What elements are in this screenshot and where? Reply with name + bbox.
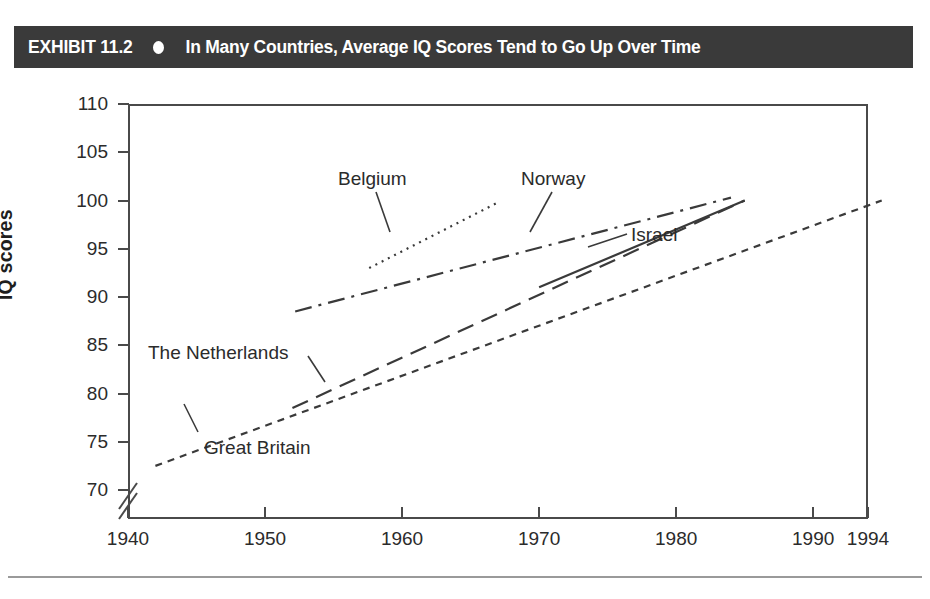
y-tick-mark-90 <box>118 296 129 298</box>
y-tick-mark-110 <box>118 103 129 105</box>
x-axis-line <box>128 517 868 519</box>
y-axis-title: IQ scores <box>0 209 17 300</box>
series-label-belgium: Belgium <box>338 168 407 190</box>
chart-figure: IQ scores 110105100959085807570 19401950… <box>0 0 930 599</box>
x-tick-mark-1970 <box>538 507 540 518</box>
series-label-great-britain: Great Britain <box>204 437 311 459</box>
x-tick-mark-1994 <box>867 507 869 518</box>
y-tick-mark-80 <box>118 393 129 395</box>
series-label-norway: Norway <box>521 168 585 190</box>
x-tick-label-1994: 1994 <box>823 528 913 550</box>
y-tick-mark-100 <box>118 200 129 202</box>
x-tick-label-1950: 1950 <box>220 528 310 550</box>
x-tick-label-1940: 1940 <box>83 528 173 550</box>
y-tick-label-90: 90 <box>60 286 108 308</box>
y-tick-label-80: 80 <box>60 383 108 405</box>
y-tick-label-110: 110 <box>60 93 108 115</box>
y-tick-label-95: 95 <box>60 238 108 260</box>
y-tick-mark-85 <box>118 344 129 346</box>
y-tick-label-105: 105 <box>60 141 108 163</box>
x-tick-mark-1960 <box>401 507 403 518</box>
x-tick-label-1980: 1980 <box>631 528 721 550</box>
x-tick-mark-1990 <box>812 507 814 518</box>
series-label-the-netherlands: The Netherlands <box>148 342 288 364</box>
y-tick-mark-75 <box>118 441 129 443</box>
y-tick-label-70: 70 <box>60 479 108 501</box>
x-tick-mark-1980 <box>675 507 677 518</box>
x-tick-label-1960: 1960 <box>357 528 447 550</box>
y-tick-mark-105 <box>118 151 129 153</box>
y-tick-label-85: 85 <box>60 334 108 356</box>
y-tick-label-100: 100 <box>60 190 108 212</box>
series-label-israel: Israel <box>631 224 677 246</box>
y-tick-label-75: 75 <box>60 431 108 453</box>
y-tick-mark-95 <box>118 248 129 250</box>
x-tick-label-1970: 1970 <box>494 528 584 550</box>
x-tick-mark-1950 <box>264 507 266 518</box>
bottom-divider <box>8 576 922 578</box>
axis-break-icon <box>115 479 145 523</box>
